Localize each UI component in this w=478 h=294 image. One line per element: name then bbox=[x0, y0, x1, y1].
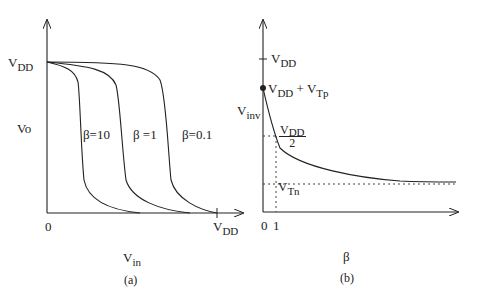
panel-b-caption: (b) bbox=[340, 272, 354, 284]
panel-b-x-axis-label: β bbox=[343, 250, 350, 263]
curve-label-beta-0.1: β=0.1 bbox=[182, 128, 212, 141]
curve-label-beta-1: β =1 bbox=[133, 128, 157, 141]
panel-b-vdd-label: VDD bbox=[271, 52, 296, 65]
panel-a-caption: (a) bbox=[124, 274, 137, 286]
panel-b-x-tick-0: 0 bbox=[261, 219, 268, 232]
panel-a-x-tick-vdd: VDD bbox=[213, 220, 238, 233]
figure-canvas bbox=[0, 0, 478, 294]
panel-a-x-axis-label: Vin bbox=[123, 251, 141, 264]
panel-a-y-axis-label: Vo bbox=[17, 122, 31, 135]
panel-b-vtn-label: VTn bbox=[278, 180, 300, 193]
panel-a-y-tick-vdd: VDD bbox=[8, 56, 33, 69]
panel-b-vdd-half-label: VDD2 bbox=[279, 124, 306, 149]
panel-a-x-origin-label: 0 bbox=[45, 220, 52, 233]
curve-beta-1 bbox=[47, 62, 190, 213]
curve-label-beta-10: β=10 bbox=[83, 128, 110, 141]
panel-b-x-tick-1: 1 bbox=[273, 219, 280, 232]
panel-b-vdd-plus-vtp-label: VDD + VTp bbox=[268, 82, 329, 95]
panel-a-axes bbox=[47, 20, 243, 218]
panel-b-y-axis-label: Vinv bbox=[237, 104, 260, 117]
